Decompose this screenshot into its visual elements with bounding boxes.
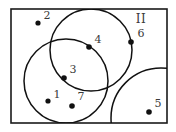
point-label-3: 3 <box>70 63 77 76</box>
venn-diagram-figure: II 2 4 6 3 1 <box>0 0 176 132</box>
point-dot-3 <box>61 75 67 81</box>
diagram-canvas: II 2 4 6 3 1 <box>0 0 176 132</box>
point-label-7: 7 <box>78 90 85 103</box>
point-label-2: 2 <box>44 9 51 22</box>
point-label-1: 1 <box>54 88 61 101</box>
region-label-II: II <box>136 12 146 26</box>
point-dot-7 <box>69 103 75 109</box>
point-dot-4 <box>86 44 92 50</box>
point-label-4: 4 <box>95 33 102 46</box>
point-dot-5 <box>146 109 152 115</box>
point-dot-1 <box>45 98 50 103</box>
point-label-5: 5 <box>155 97 162 110</box>
point-dot-2 <box>35 20 40 25</box>
region-labels-group: II <box>136 12 146 26</box>
point-label-6: 6 <box>138 27 145 40</box>
point-dot-6 <box>128 39 134 45</box>
